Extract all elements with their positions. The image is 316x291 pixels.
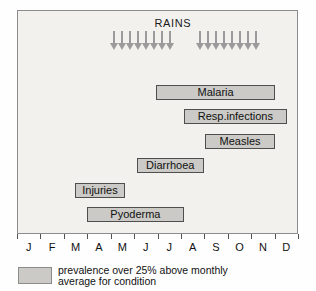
down-arrow-icon (220, 31, 228, 50)
down-arrow-icon (212, 31, 220, 50)
down-arrow-icon (126, 31, 134, 50)
condition-bar-diarrhoea: Diarrhoea (137, 158, 204, 173)
month-label-3: M (71, 241, 80, 253)
legend-text: prevalence over 25% above monthly averag… (58, 265, 228, 287)
down-arrow-icon (166, 31, 174, 50)
rain-arrows-group (110, 31, 166, 50)
month-label-4: A (95, 241, 102, 253)
down-arrow-icon (196, 31, 204, 50)
condition-bar-label: Malaria (198, 87, 234, 98)
axis-tick (158, 234, 159, 239)
axis-tick (228, 234, 229, 239)
month-label-7: J (166, 241, 172, 253)
legend: prevalence over 25% above monthly averag… (18, 265, 228, 287)
down-arrow-icon (110, 31, 118, 50)
month-label-9: S (212, 241, 219, 253)
rain-arrows-group (196, 31, 252, 50)
axis-tick (134, 234, 135, 239)
condition-bar-label: Pyoderma (110, 209, 160, 220)
axis-tick (251, 234, 252, 239)
condition-bar-injuries: Injuries (75, 183, 125, 198)
axis-tick (17, 234, 18, 239)
seasonal-disease-prevalence-figure: RAINS MalariaResp.infectionsMeaslesDiarr… (0, 0, 316, 291)
down-arrow-icon (252, 31, 260, 50)
month-label-11: N (259, 241, 267, 253)
axis-tick (111, 234, 112, 239)
down-arrow-icon (228, 31, 236, 50)
condition-bar-label: Measles (220, 136, 261, 147)
down-arrow-icon (142, 31, 150, 50)
legend-swatch (18, 267, 52, 284)
axis-tick (298, 234, 299, 239)
plot-area: RAINS MalariaResp.infectionsMeaslesDiarr… (17, 10, 298, 234)
axis-tick (275, 234, 276, 239)
condition-bar-malaria: Malaria (156, 85, 275, 100)
down-arrow-icon (150, 31, 158, 50)
condition-bar-label: Injuries (82, 185, 117, 196)
axis-tick (204, 234, 205, 239)
down-arrow-icon (204, 31, 212, 50)
down-arrow-icon (158, 31, 166, 50)
month-label-12: D (282, 241, 290, 253)
condition-bar-label: Diarrhoea (146, 160, 194, 171)
down-arrow-icon (244, 31, 252, 50)
month-label-6: J (143, 241, 149, 253)
condition-bar-pyoderma: Pyoderma (87, 207, 185, 222)
month-axis: JFMAMJJASOND (17, 234, 298, 258)
axis-tick (181, 234, 182, 239)
month-label-1: J (26, 241, 32, 253)
month-label-10: O (235, 241, 244, 253)
axis-tick (87, 234, 88, 239)
month-label-8: A (189, 241, 196, 253)
axis-tick (40, 234, 41, 239)
month-label-2: F (49, 241, 56, 253)
down-arrow-icon (134, 31, 142, 50)
legend-line-2: average for condition (58, 276, 228, 287)
condition-bar-measles: Measles (205, 134, 275, 149)
condition-bar-label: Resp.infections (198, 111, 273, 122)
rains-title: RAINS (155, 17, 192, 29)
down-arrow-icon (118, 31, 126, 50)
axis-tick (64, 234, 65, 239)
condition-bar-resp-infections: Resp.infections (184, 109, 286, 124)
down-arrow-icon (236, 31, 244, 50)
month-label-5: M (118, 241, 127, 253)
